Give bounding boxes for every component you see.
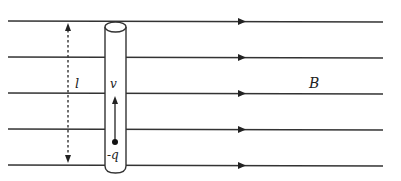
field-line [8, 21, 383, 22]
length-arrow-head-top [65, 23, 71, 31]
diagram-canvas: l v -q B [0, 0, 401, 181]
field-line [8, 93, 383, 94]
field-direction-arrowhead [238, 162, 246, 169]
field-direction-arrowhead [238, 90, 246, 97]
field-lines [8, 18, 383, 169]
field-direction-arrowhead [238, 54, 246, 61]
field-line [8, 165, 383, 166]
diagram-svg: l v -q B [0, 0, 401, 181]
tube-bottom [105, 166, 126, 173]
velocity-label: v [110, 77, 117, 91]
field-line [8, 57, 383, 58]
field-direction-arrowhead [238, 126, 246, 133]
length-label: l [75, 76, 79, 91]
field-label: B [308, 75, 319, 91]
field-line [8, 129, 383, 130]
charge-dot [112, 139, 118, 145]
charge-label: -q [107, 148, 119, 162]
tube-top-ellipse [105, 22, 126, 32]
field-direction-arrowhead [238, 18, 246, 25]
length-arrow-head-bottom [65, 155, 71, 163]
